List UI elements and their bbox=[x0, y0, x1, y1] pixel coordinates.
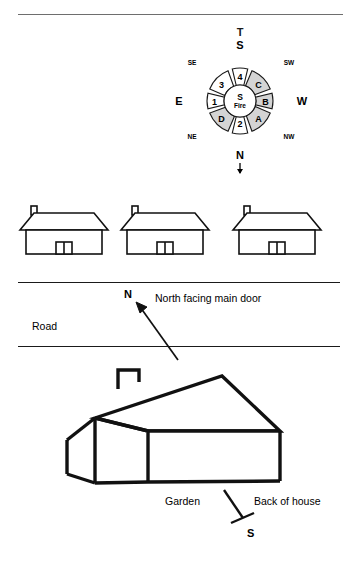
front-wall-fill bbox=[95, 431, 280, 483]
diagram-page: T S SE SW NE NW E W N bbox=[0, 0, 358, 571]
compass-segment-label-2: 2 bbox=[237, 119, 242, 129]
svg-text:T: T bbox=[237, 26, 244, 38]
compass-cardinal-left: E bbox=[175, 95, 182, 107]
isometric-house bbox=[62, 364, 288, 502]
roof bbox=[233, 213, 321, 230]
road-edge-top bbox=[18, 282, 340, 283]
compass-label-se: SE bbox=[188, 59, 197, 66]
compass-label-nw: NW bbox=[284, 133, 296, 140]
wall-bottom-edge bbox=[95, 481, 280, 483]
compass-segment-label-B: B bbox=[262, 97, 269, 107]
compass-label-ne: NE bbox=[187, 133, 197, 140]
compass-cardinal-top: S bbox=[236, 39, 243, 51]
compass-segment-label-4: 4 bbox=[237, 72, 242, 82]
compass-center-top: S bbox=[237, 92, 243, 102]
compass-label-sw: SW bbox=[284, 59, 295, 66]
compass-north-arrow bbox=[237, 163, 243, 174]
compass-segment-label-1: 1 bbox=[212, 97, 217, 107]
compass-segment-label-C: C bbox=[255, 80, 262, 90]
roof bbox=[20, 213, 108, 230]
top-divider bbox=[18, 14, 343, 15]
small-house bbox=[233, 206, 321, 254]
small-house bbox=[20, 206, 108, 254]
chimney bbox=[118, 370, 139, 389]
compass-cardinal-right: W bbox=[297, 95, 308, 107]
top-tick-marker: T bbox=[237, 26, 244, 38]
compass-diagram: T S SE SW NE NW E W N bbox=[170, 26, 310, 174]
road-label: Road bbox=[32, 320, 57, 332]
south-direction-pointer bbox=[216, 487, 266, 531]
house-row-svg bbox=[18, 204, 340, 266]
isometric-house-svg bbox=[62, 364, 288, 498]
compass-center-bottom: Fire bbox=[234, 102, 246, 109]
compass-wheel-svg: T S SE SW NE NW E W N bbox=[170, 26, 310, 174]
compass-cardinal-bottom: N bbox=[236, 149, 244, 161]
compass-segment-label-A: A bbox=[255, 114, 262, 124]
small-house bbox=[121, 206, 209, 254]
north-direction-arrow bbox=[130, 296, 200, 362]
roof bbox=[121, 213, 209, 230]
compass-segment-label-3: 3 bbox=[219, 80, 224, 90]
garden-label: Garden bbox=[165, 495, 200, 507]
house-row bbox=[18, 204, 340, 266]
compass-segment-label-D: D bbox=[218, 114, 225, 124]
